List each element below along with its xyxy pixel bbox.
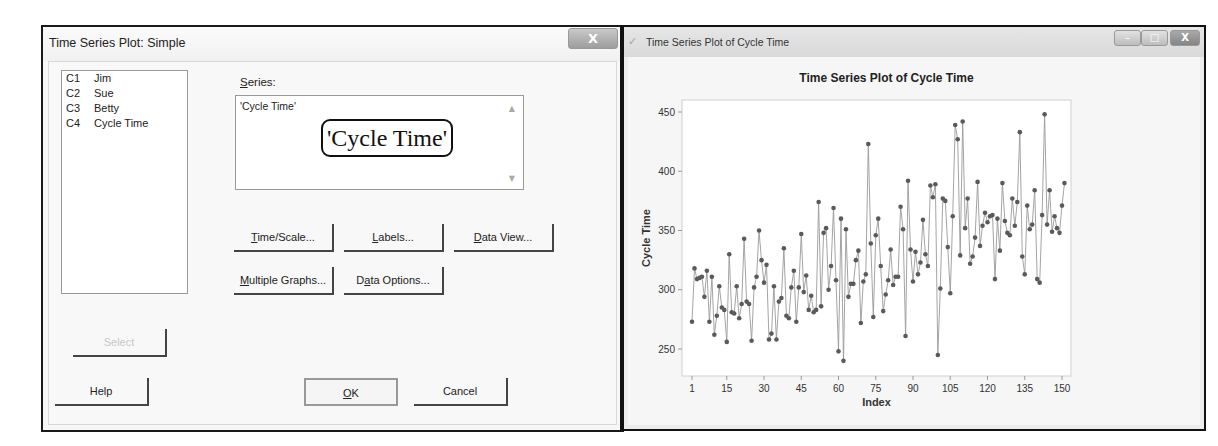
labels-button[interactable]: Labels... xyxy=(344,224,444,252)
data-point xyxy=(995,216,1000,221)
data-point xyxy=(861,279,866,284)
data-point xyxy=(836,349,841,354)
window-close-button[interactable]: X xyxy=(1170,30,1200,46)
y-axis-label: Cycle Time xyxy=(640,209,652,267)
close-icon: X xyxy=(588,31,598,46)
data-point xyxy=(963,226,968,231)
variable-list-item[interactable]: C4Cycle Time xyxy=(62,116,187,131)
data-point xyxy=(809,293,814,298)
graph-window-titlebar[interactable]: ✓ Time Series Plot of Cycle Time – □ X xyxy=(624,27,1204,57)
data-point xyxy=(1040,213,1045,218)
select-button[interactable]: Select xyxy=(73,329,167,357)
y-tick-label: 400 xyxy=(658,166,675,177)
data-point xyxy=(690,319,695,324)
data-point xyxy=(806,308,811,313)
time-series-plot-dialog: Time Series Plot: Simple X C1JimC2SueC3B… xyxy=(41,25,624,432)
data-point xyxy=(864,272,869,277)
variable-column-id: C3 xyxy=(66,101,80,116)
data-point xyxy=(762,280,767,285)
data-point xyxy=(923,252,928,257)
data-point xyxy=(1062,181,1067,186)
data-point xyxy=(779,296,784,301)
maximize-button[interactable]: □ xyxy=(1141,30,1168,46)
data-point xyxy=(734,284,739,289)
data-point xyxy=(958,253,963,258)
x-tick-label: 135 xyxy=(1016,383,1033,394)
scroll-up-icon[interactable]: ▲ xyxy=(509,104,515,113)
variable-column-id: C1 xyxy=(66,71,80,86)
y-tick-label: 300 xyxy=(658,284,675,295)
data-point xyxy=(1057,231,1062,236)
data-point xyxy=(794,319,799,324)
data-point xyxy=(859,321,864,326)
x-tick-label: 75 xyxy=(870,383,882,394)
data-point xyxy=(772,284,777,289)
data-point xyxy=(918,260,923,265)
graph-app-icon: ✓ xyxy=(628,36,640,48)
data-point xyxy=(983,210,988,215)
data-point xyxy=(1020,254,1025,259)
data-point xyxy=(702,295,707,300)
data-point xyxy=(928,183,933,188)
data-point xyxy=(1045,222,1050,227)
chart-title: Time Series Plot of Cycle Time xyxy=(799,71,974,85)
time-series-chart: Time Series Plot of Cycle Time2503003504… xyxy=(628,57,1206,429)
data-point xyxy=(891,283,896,288)
data-point xyxy=(886,278,891,283)
x-tick-label: 30 xyxy=(758,383,770,394)
help-button[interactable]: Help xyxy=(55,378,149,406)
time-scale-button[interactable]: Time/Scale... xyxy=(234,224,334,252)
data-point xyxy=(883,292,888,297)
cancel-button[interactable]: Cancel xyxy=(414,378,508,406)
variable-column-id: C4 xyxy=(66,116,80,131)
variable-list[interactable]: C1JimC2SueC3BettyC4Cycle Time xyxy=(61,70,188,294)
data-point xyxy=(1017,130,1022,135)
ok-button[interactable]: OK xyxy=(304,378,398,406)
data-point xyxy=(796,285,801,290)
data-point xyxy=(970,254,975,259)
data-view-button[interactable]: Data View... xyxy=(454,224,554,252)
data-point xyxy=(1060,203,1065,208)
dialog-title: Time Series Plot: Simple xyxy=(49,36,185,50)
data-point xyxy=(906,178,911,183)
variable-column-id: C2 xyxy=(66,86,80,101)
data-point xyxy=(839,216,844,221)
data-point xyxy=(1008,233,1013,238)
data-point xyxy=(757,228,762,233)
data-point xyxy=(948,291,953,296)
x-tick-label: 90 xyxy=(907,383,919,394)
dialog-titlebar[interactable]: Time Series Plot: Simple X xyxy=(43,27,622,61)
data-point xyxy=(752,285,757,290)
data-point xyxy=(1042,112,1047,117)
data-point xyxy=(851,282,856,287)
series-input[interactable]: 'Cycle Time' 'Cycle Time' ▲ ▼ xyxy=(235,95,524,190)
plot-area xyxy=(682,100,1071,376)
data-point xyxy=(712,332,717,337)
data-point xyxy=(856,248,861,253)
data-point xyxy=(774,337,779,342)
variable-list-item[interactable]: C1Jim xyxy=(62,71,187,86)
minimize-button[interactable]: – xyxy=(1114,30,1141,46)
variable-list-item[interactable]: C3Betty xyxy=(62,101,187,116)
data-point xyxy=(980,223,985,228)
data-point xyxy=(792,268,797,273)
variable-list-item[interactable]: C2Sue xyxy=(62,86,187,101)
data-point xyxy=(960,119,965,124)
scroll-down-icon[interactable]: ▼ xyxy=(509,174,515,183)
data-point xyxy=(831,206,836,211)
data-point xyxy=(978,244,983,249)
multiple-graphs-button[interactable]: Multiple Graphs... xyxy=(234,267,334,295)
data-point xyxy=(707,319,712,324)
x-axis-label: Index xyxy=(862,396,892,408)
close-button[interactable]: X xyxy=(568,28,618,49)
data-point xyxy=(1010,196,1015,201)
data-point xyxy=(896,274,901,279)
data-options-button[interactable]: Data Options... xyxy=(344,267,444,295)
x-tick-label: 1 xyxy=(689,383,695,394)
data-point xyxy=(878,264,883,269)
data-point xyxy=(722,308,727,313)
data-point xyxy=(1030,222,1035,227)
variable-name: Jim xyxy=(94,71,111,86)
variable-name: Cycle Time xyxy=(94,116,148,131)
data-point xyxy=(888,247,893,252)
